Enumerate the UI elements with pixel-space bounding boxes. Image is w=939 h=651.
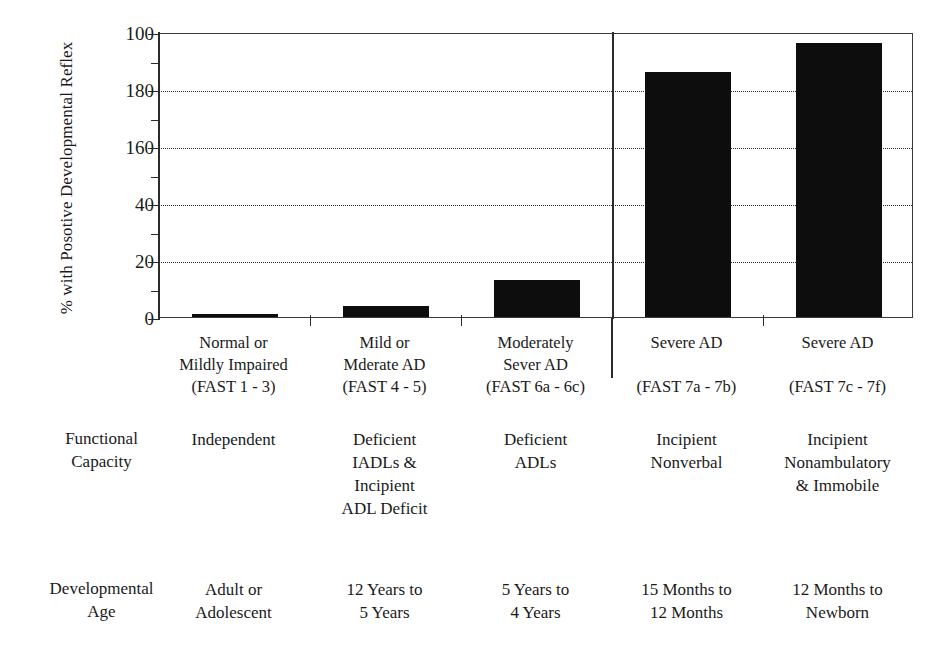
bar: [192, 314, 278, 317]
bar-chart-figure: % with Posotive Developmental Reflex 100…: [0, 0, 939, 420]
plot-area: [158, 33, 913, 318]
x-axis-tick: [310, 315, 311, 326]
category-label-line: Normal or: [150, 332, 317, 354]
annotation-cell-line: ADL Deficit: [295, 497, 474, 520]
bar: [796, 43, 882, 317]
category-label: Severe AD (FAST 7a - 7b): [603, 332, 770, 397]
category-label-row: Normal orMildly Impaired(FAST 1 - 3)Mild…: [158, 332, 939, 420]
category-label: Normal orMildly Impaired(FAST 1 - 3): [150, 332, 317, 397]
y-axis-minor-tick: [151, 63, 160, 64]
category-label: Mild orMderate AD(FAST 4 - 5): [301, 332, 468, 397]
y-axis-tick-label: 40: [96, 195, 154, 214]
y-axis-tick-label: 20: [96, 252, 154, 271]
annotation-cell-line: 12 Months to: [748, 578, 927, 601]
functional-capacity-row: FunctionalCapacity IndependentDeficientI…: [0, 428, 939, 538]
category-label-line: Severe AD: [754, 332, 921, 354]
bar: [343, 306, 429, 317]
y-axis-minor-tick: [151, 291, 160, 292]
y-axis-tick-label: 100: [96, 24, 154, 43]
category-label-line: Sever AD: [452, 354, 619, 376]
category-label-line: Mildly Impaired: [150, 354, 317, 376]
y-axis-major-tick: [148, 34, 160, 35]
category-label-line: Severe AD: [603, 332, 770, 354]
developmental-age-row: DevelopmentalAge Adult orAdolescent12 Ye…: [0, 578, 939, 648]
category-label-line: [603, 354, 770, 376]
x-axis-tick: [763, 315, 764, 326]
y-axis-title: % with Posotive Developmental Reflex: [57, 18, 77, 338]
y-axis-tick-label: 180: [96, 81, 154, 100]
group-separator-line: [612, 32, 614, 319]
y-axis-minor-tick: [151, 177, 160, 178]
annotation-cell: IncipientNonambulatory& Immobile: [748, 428, 927, 497]
group-separator-line-extension: [611, 318, 613, 378]
annotation-cell-line: Nonambulatory: [748, 451, 927, 474]
category-label-line: Mderate AD: [301, 354, 468, 376]
y-axis-tick-label: 0: [96, 309, 154, 328]
y-axis-minor-tick: [151, 234, 160, 235]
category-label-line: (FAST 4 - 5): [301, 376, 468, 398]
bar: [494, 280, 580, 317]
bar: [645, 72, 731, 317]
category-label-line: [754, 354, 921, 376]
y-axis-tick-label: 160: [96, 138, 154, 157]
row-header-line: Capacity: [14, 451, 189, 474]
category-label-line: Moderately: [452, 332, 619, 354]
y-axis-tick-labels: 10018016040200: [96, 0, 154, 340]
category-label-line: (FAST 7c - 7f): [754, 376, 921, 398]
y-axis-minor-tick: [151, 120, 160, 121]
category-label-line: (FAST 6a - 6c): [452, 376, 619, 398]
y-axis-major-tick: [148, 319, 160, 320]
annotation-cell-line: Incipient: [295, 474, 474, 497]
category-label-line: Mild or: [301, 332, 468, 354]
category-label-line: (FAST 7a - 7b): [603, 376, 770, 398]
category-label: ModeratelySever AD(FAST 6a - 6c): [452, 332, 619, 397]
x-axis-tick: [461, 315, 462, 326]
annotation-cell-line: Newborn: [748, 601, 927, 624]
annotation-cell-line: Incipient: [748, 428, 927, 451]
category-label: Severe AD (FAST 7c - 7f): [754, 332, 921, 397]
category-label-line: (FAST 1 - 3): [150, 376, 317, 398]
annotation-cell-line: & Immobile: [748, 474, 927, 497]
annotation-cell: 12 Months toNewborn: [748, 578, 927, 624]
